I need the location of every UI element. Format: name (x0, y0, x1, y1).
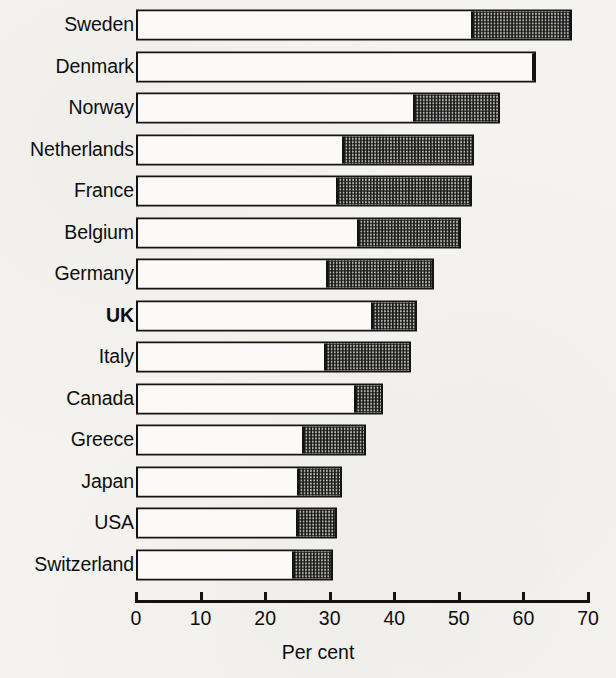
bar-segment-lower (138, 261, 326, 288)
stacked-bar (136, 259, 434, 290)
bar-segment-lower (138, 95, 413, 122)
bar-segment-lower (138, 427, 302, 454)
bar-segment-upper (342, 136, 472, 163)
bar-segment-upper (413, 95, 497, 122)
stacked-bar (136, 300, 417, 331)
category-label-denmark: Denmark (56, 57, 134, 77)
x-axis: 010203040506070 Per cent (0, 592, 616, 678)
stacked-bar (136, 508, 337, 539)
bar-segment-lower (138, 12, 471, 39)
bar-segment-upper (354, 385, 382, 412)
bar-row: Belgium (0, 216, 616, 250)
bar-segment-lower (138, 178, 336, 205)
axis-tick-label: 70 (577, 609, 599, 629)
bar-row: Norway (0, 91, 616, 125)
category-label-canada: Canada (66, 389, 134, 409)
bar-segment-upper (297, 468, 339, 495)
stacked-bar (136, 549, 333, 580)
axis-tick-label: 60 (513, 609, 535, 629)
bar-row: Sweden (0, 8, 616, 42)
bar-segment-lower (138, 136, 342, 163)
bar-segment-upper (336, 178, 470, 205)
bar-segment-upper (471, 12, 570, 39)
bar-row: UK (0, 299, 616, 333)
axis-tick (393, 592, 396, 603)
plot-area: SwedenDenmarkNorwayNetherlandsFranceBelg… (0, 0, 616, 592)
bar-row: USA (0, 506, 616, 540)
axis-title: Per cent (0, 641, 616, 664)
bar-row: Canada (0, 382, 616, 416)
bar-row: Italy (0, 340, 616, 374)
axis-line (136, 600, 588, 603)
bar-segment-upper (324, 344, 409, 371)
axis-tick (458, 592, 461, 603)
bar-segment-upper (371, 302, 415, 329)
category-label-uk: UK (106, 306, 134, 326)
category-label-netherlands: Netherlands (30, 140, 134, 160)
axis-tick-label: 40 (383, 609, 405, 629)
bar-row: Germany (0, 257, 616, 291)
stacked-bar (136, 425, 366, 456)
stacked-bar (136, 217, 461, 248)
category-label-belgium: Belgium (64, 223, 134, 243)
chart-container: SwedenDenmarkNorwayNetherlandsFranceBelg… (0, 0, 616, 678)
category-label-norway: Norway (69, 98, 135, 118)
stacked-bar (136, 10, 572, 41)
category-label-germany: Germany (55, 264, 135, 284)
bar-row: France (0, 174, 616, 208)
axis-tick (587, 592, 590, 603)
bar-segment-upper (532, 53, 534, 80)
bar-segment-lower (138, 219, 357, 246)
axis-title-label: Per cent (282, 641, 355, 663)
bar-segment-lower (138, 551, 292, 578)
bar-segment-upper (302, 427, 364, 454)
stacked-bar (136, 93, 500, 124)
category-label-france: France (74, 181, 134, 201)
category-label-usa: USA (94, 513, 134, 533)
axis-tick-label: 10 (190, 609, 212, 629)
bar-row: Switzerland (0, 548, 616, 582)
bar-segment-lower (138, 385, 354, 412)
bar-segment-lower (138, 53, 532, 80)
bar-segment-lower (138, 468, 297, 495)
axis-tick (329, 592, 332, 603)
axis-tick-label: 30 (319, 609, 341, 629)
bar-segment-lower (138, 344, 324, 371)
bar-segment-upper (296, 510, 335, 537)
bar-row: Japan (0, 465, 616, 499)
category-label-sweden: Sweden (64, 15, 134, 35)
bar-row: Netherlands (0, 133, 616, 167)
category-label-switzerland: Switzerland (34, 555, 134, 575)
category-label-italy: Italy (99, 347, 134, 367)
stacked-bar (136, 176, 472, 207)
bar-segment-upper (326, 261, 432, 288)
axis-tick (264, 592, 267, 603)
category-label-greece: Greece (71, 430, 134, 450)
stacked-bar (136, 51, 536, 82)
axis-tick (200, 592, 203, 603)
stacked-bar (136, 342, 411, 373)
category-label-japan: Japan (81, 472, 134, 492)
bar-segment-upper (357, 219, 460, 246)
bar-segment-lower (138, 302, 371, 329)
bar-segment-upper (292, 551, 331, 578)
stacked-bar (136, 383, 383, 414)
bar-segment-lower (138, 510, 296, 537)
stacked-bar (136, 466, 342, 497)
bar-row: Denmark (0, 50, 616, 84)
bar-row: Greece (0, 423, 616, 457)
axis-tick (522, 592, 525, 603)
axis-tick (135, 592, 138, 603)
axis-tick-label: 50 (448, 609, 470, 629)
axis-tick-label: 20 (254, 609, 276, 629)
stacked-bar (136, 134, 474, 165)
axis-tick-label: 0 (131, 609, 142, 629)
